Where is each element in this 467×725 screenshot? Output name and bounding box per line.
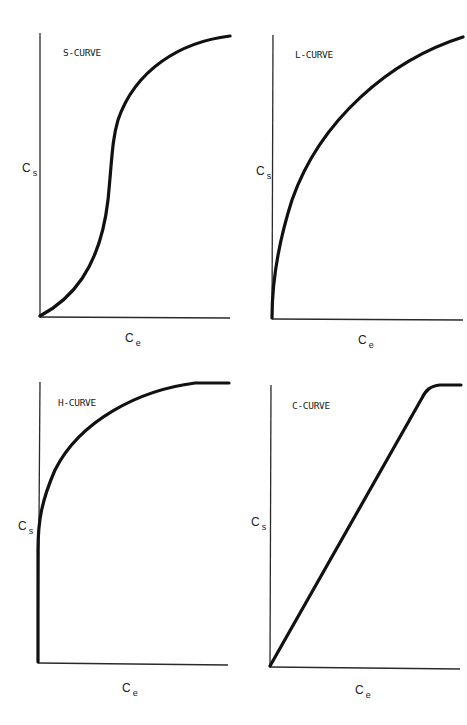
x-axis-label: Ce <box>358 333 374 350</box>
panel-l-curve: L-CURVE Cs Ce <box>256 35 463 350</box>
y-axis-label: Cs <box>18 519 34 536</box>
panel-title: L-CURVE <box>295 49 334 60</box>
x-axis <box>38 663 228 665</box>
x-axis <box>272 319 463 320</box>
x-axis-label: Ce <box>122 681 138 698</box>
y-axis <box>272 35 273 319</box>
panel-h-curve: H-CURVE Cs Ce <box>18 382 229 698</box>
x-axis-label: Ce <box>355 683 371 700</box>
l-curve-line <box>272 37 463 318</box>
h-curve-line <box>38 383 229 662</box>
x-axis-label: Ce <box>125 331 141 348</box>
panel-s-curve: S-CURVE Cs Ce <box>22 33 230 348</box>
x-axis <box>270 667 460 669</box>
y-axis-label: Cs <box>256 164 272 181</box>
c-curve-line <box>270 385 461 666</box>
y-axis-label: Cs <box>22 161 38 178</box>
panel-title: S-CURVE <box>63 47 102 58</box>
y-axis <box>270 385 271 667</box>
isotherm-figure: S-CURVE Cs Ce L-CURVE Cs Ce H-CURVE Cs C… <box>0 0 467 725</box>
s-curve-line <box>40 36 230 316</box>
panel-title: C-CURVE <box>292 400 331 411</box>
panel-c-curve: C-CURVE Cs Ce <box>251 385 461 700</box>
panel-title: H-CURVE <box>58 397 97 408</box>
y-axis-label: Cs <box>251 515 267 532</box>
x-axis <box>40 317 230 318</box>
